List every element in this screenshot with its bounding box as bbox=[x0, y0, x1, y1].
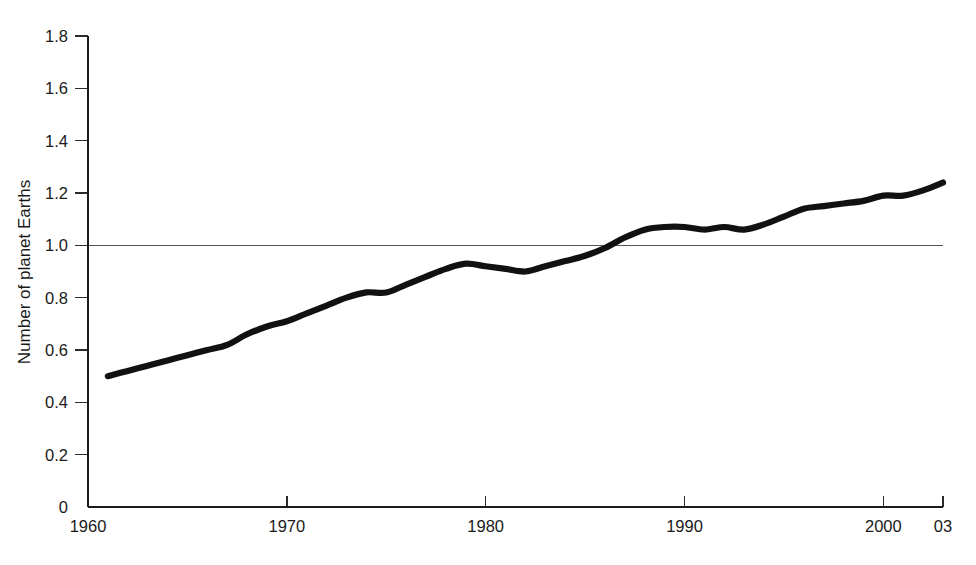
planet-earths-series-line bbox=[108, 183, 943, 377]
y-axis-ticks-group bbox=[75, 36, 88, 455]
y-axis-tick-label: 1.6 bbox=[45, 79, 68, 97]
y-axis-tick-label: 1.0 bbox=[45, 236, 68, 254]
chart-figure: 00.20.40.60.81.01.21.41.61.8 19601970198… bbox=[0, 0, 976, 565]
y-axis-tick-label: 0.4 bbox=[45, 393, 68, 411]
y-axis-tick-label: 0.2 bbox=[45, 446, 68, 464]
y-axis-tick-label: 1.4 bbox=[45, 132, 68, 150]
line-chart: 00.20.40.60.81.01.21.41.61.8 19601970198… bbox=[0, 0, 976, 565]
y-axis-tick-label: 1.2 bbox=[45, 184, 68, 202]
x-axis-tick-label: 1990 bbox=[666, 517, 703, 535]
x-axis-ticks-group bbox=[88, 496, 943, 507]
x-axis-tick-label: 1970 bbox=[268, 517, 305, 535]
x-axis-tick-labels-group: 1960197019801990200003 bbox=[70, 517, 953, 535]
y-axis-title: Number of planet Earths bbox=[15, 180, 34, 364]
x-axis-tick-label: 03 bbox=[934, 517, 952, 535]
y-axis-tick-labels-group: 00.20.40.60.81.01.21.41.61.8 bbox=[45, 27, 68, 516]
x-axis-tick-label: 1960 bbox=[70, 517, 107, 535]
y-axis-tick-label: 0 bbox=[59, 498, 68, 516]
y-axis-tick-label: 0.6 bbox=[45, 341, 68, 359]
x-axis-tick-label: 1980 bbox=[467, 517, 504, 535]
y-axis-tick-label: 1.8 bbox=[45, 27, 68, 45]
y-axis-tick-label: 0.8 bbox=[45, 289, 68, 307]
x-axis-tick-label: 2000 bbox=[865, 517, 902, 535]
